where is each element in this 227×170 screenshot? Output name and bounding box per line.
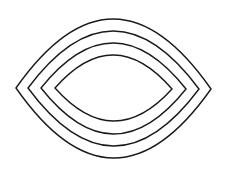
lens-outline-inner: [55, 55, 172, 121]
lens-outline-outer: [16, 19, 211, 158]
lens-outline-second: [28, 31, 199, 146]
concentric-lens-diagram: [0, 0, 227, 170]
lens-group: [16, 19, 211, 158]
